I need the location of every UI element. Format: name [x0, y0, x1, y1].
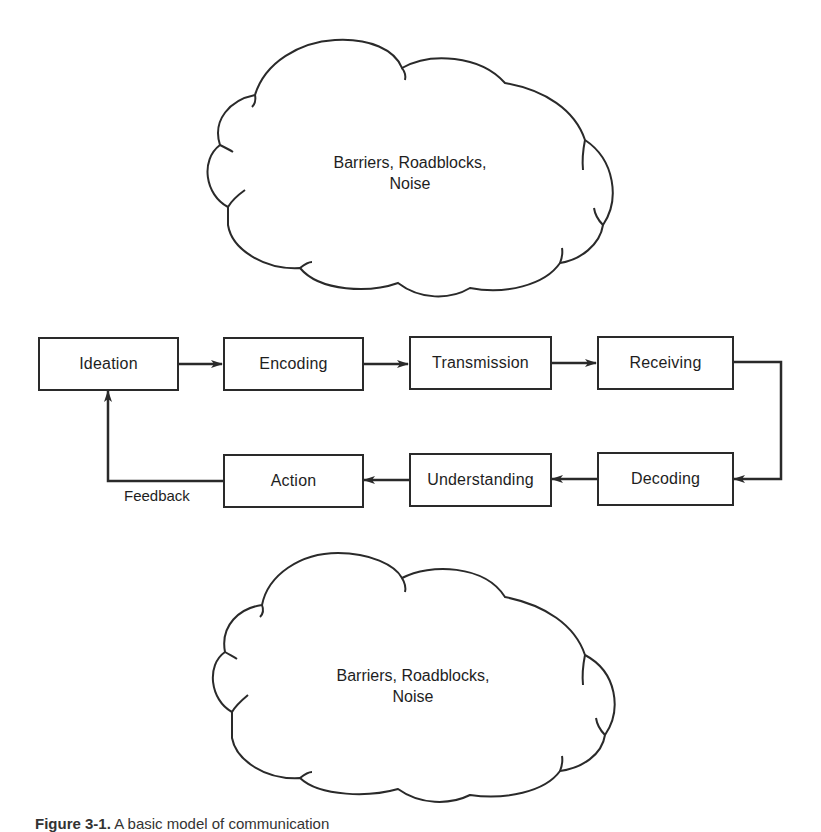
- cloud-bottom-line2: Noise: [313, 686, 513, 707]
- node-ideation: Ideation: [38, 337, 179, 391]
- cloud-top-label: Barriers, Roadblocks, Noise: [310, 152, 510, 194]
- cloud-bottom-label: Barriers, Roadblocks, Noise: [313, 665, 513, 707]
- arrow-feedback: [108, 391, 223, 481]
- node-transmission: Transmission: [409, 336, 552, 390]
- figure-caption: Figure 3-1. A basic model of communicati…: [35, 815, 329, 832]
- arrow-receiving-decoding: [733, 362, 781, 479]
- cloud-top-line2: Noise: [310, 173, 510, 194]
- node-receiving: Receiving: [597, 336, 734, 390]
- cloud-top-line1: Barriers, Roadblocks,: [310, 152, 510, 173]
- figure-number: Figure 3-1.: [35, 815, 111, 832]
- figure-caption-text: A basic model of communication: [114, 815, 329, 832]
- node-action: Action: [223, 454, 364, 508]
- feedback-label: Feedback: [124, 487, 190, 504]
- cloud-bottom-line1: Barriers, Roadblocks,: [313, 665, 513, 686]
- node-decoding: Decoding: [597, 452, 734, 506]
- node-understanding: Understanding: [409, 453, 552, 507]
- node-encoding: Encoding: [223, 337, 364, 391]
